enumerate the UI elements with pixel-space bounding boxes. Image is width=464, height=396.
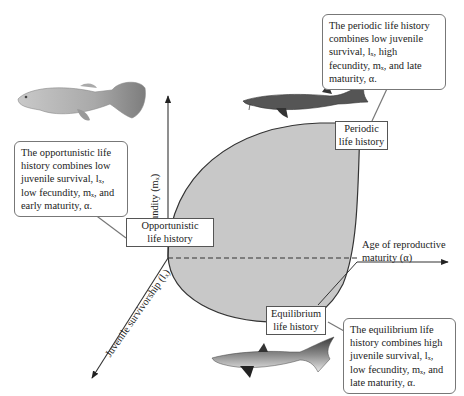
equilibrium-line1: Equilibrium bbox=[269, 308, 323, 321]
x-axis-label: Age of reproductive maturity (α) bbox=[362, 238, 446, 264]
opportunistic-line1: Opportunistic bbox=[129, 220, 211, 233]
periodic-callout: The periodic life history combines low j… bbox=[322, 14, 446, 90]
periodic-line2: life history bbox=[338, 136, 385, 149]
x-axis-label-line2: maturity (α) bbox=[362, 251, 446, 264]
guppy-fish-image bbox=[18, 82, 145, 120]
equilibrium-line2: life history bbox=[269, 321, 323, 334]
equilibrium-life-history-label: Equilibrium life history bbox=[266, 306, 326, 335]
opportunistic-callout: The opportunistic life history combines … bbox=[14, 141, 128, 217]
equilibrium-callout: The equilibrium life history combines hi… bbox=[343, 318, 456, 394]
periodic-life-history-label: Periodic life history bbox=[335, 121, 388, 150]
opportunistic-line2: life history bbox=[129, 233, 211, 246]
periodic-line1: Periodic bbox=[338, 123, 385, 136]
opportunistic-life-history-label: Opportunistic life history bbox=[126, 218, 214, 247]
leader-equilibrium bbox=[328, 322, 344, 331]
shark-image bbox=[212, 337, 334, 378]
x-axis-label-line1: Age of reproductive bbox=[362, 238, 446, 251]
